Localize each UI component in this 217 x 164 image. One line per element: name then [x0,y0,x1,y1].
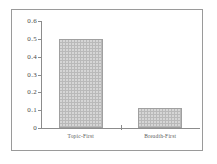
y-axis-tick-label: 0.4 [27,53,37,60]
y-axis-tick-label: 0.2 [27,89,37,96]
chart-figure: 00.10.20.30.40.50.6 Topic-FirstBreadth-F… [0,0,217,164]
y-axis-tick-label: 0.1 [27,107,37,114]
y-axis-tick-label: 0 [33,125,37,132]
bar [59,39,103,128]
y-axis-tick [38,39,42,40]
y-axis-tick-label: 0.5 [27,35,37,42]
y-axis-tick [38,57,42,58]
y-axis-tick [38,110,42,111]
y-axis-tick-label: 0.3 [27,71,37,78]
y-axis-tick [38,75,42,76]
category-label: Breadth-First [144,133,176,139]
category-label: Topic-First [67,133,94,139]
y-axis-tick [38,92,42,93]
bar [138,108,182,128]
x-axis-center-tick [121,125,122,130]
y-axis-tick-label: 0.6 [27,18,37,25]
y-axis-tick [38,128,42,129]
plot-area: 00.10.20.30.40.50.6 Topic-FirstBreadth-F… [41,21,200,129]
y-axis-tick [38,21,42,22]
